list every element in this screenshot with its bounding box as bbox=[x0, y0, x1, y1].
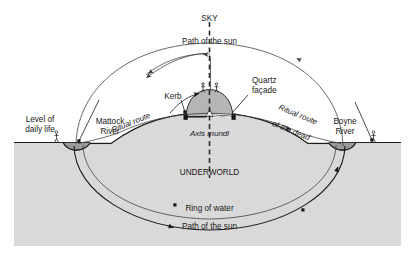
newgrange-cosmology-diagram: SKY Path of the sun Kerb Quartz façade L… bbox=[0, 0, 419, 263]
label-level-daily-life-line2: daily life bbox=[25, 125, 55, 134]
label-quartz-facade-line1: Quartz bbox=[252, 76, 277, 85]
label-ring-of-water: Ring of water bbox=[185, 204, 234, 213]
label-underworld: UNDERWORLD bbox=[180, 168, 240, 177]
label-axis-mundi: Axis mundi bbox=[189, 129, 229, 138]
label-path-of-sun-bottom: Path of the sun bbox=[182, 222, 238, 231]
label-sky: SKY bbox=[201, 14, 218, 23]
label-boyne-river-line1: Boyne bbox=[333, 117, 357, 126]
person-icon-left bbox=[54, 131, 58, 142]
label-quartz-facade-line2: façade bbox=[252, 86, 277, 95]
person-icon-right bbox=[371, 131, 375, 142]
label-boyne-river-line2: River bbox=[335, 127, 354, 136]
diagram-canvas: SKY Path of the sun Kerb Quartz façade L… bbox=[0, 0, 419, 263]
label-path-of-sun-top: Path of the sun bbox=[182, 37, 238, 46]
label-level-daily-life-line1: Level of bbox=[26, 115, 55, 124]
label-kerb: Kerb bbox=[164, 92, 182, 101]
